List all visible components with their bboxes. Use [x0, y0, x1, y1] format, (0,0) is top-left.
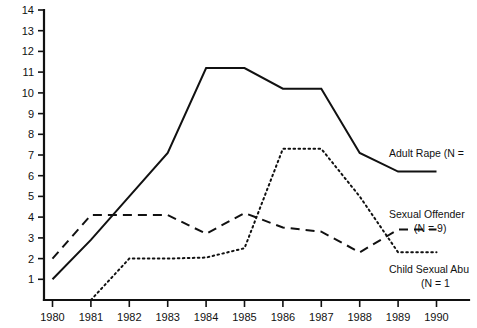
x-tick-label: 1989 — [386, 311, 410, 323]
x-tick-label: 1983 — [155, 311, 179, 323]
legend-label-sexual-offender: Sexual Offender — [389, 208, 465, 220]
y-tick-label: 5 — [28, 190, 34, 202]
x-tick-labels: 1980 1981 1982 1983 1984 1985 1986 1987 … — [40, 311, 448, 323]
chart-canvas: 14 13 12 11 10 9 8 7 6 5 4 3 2 1 — [0, 0, 477, 328]
y-tick-label: 9 — [28, 108, 34, 120]
legend-label-child-sexual-abuse-n: (N = 1 — [421, 277, 450, 289]
legend-label-sexual-offender-n: (N = 9) — [414, 222, 446, 234]
y-tick-label: 11 — [23, 66, 34, 78]
y-tick-label: 1 — [28, 273, 34, 285]
x-tick-label: 1981 — [79, 311, 103, 323]
x-tick-label: 1987 — [309, 311, 333, 323]
y-tick-label: 12 — [22, 45, 34, 57]
y-tick-label: 6 — [28, 170, 34, 182]
x-tick-label: 1980 — [40, 311, 64, 323]
x-tick-label: 1986 — [271, 311, 295, 323]
legend-label-child-sexual-abuse: Child Sexual Abu — [389, 263, 469, 275]
y-tick-label: 3 — [28, 232, 34, 244]
legend-group: Adult Rape (N = Sexual Offender (N = 9) … — [389, 147, 469, 289]
y-tick-label: 8 — [28, 128, 34, 140]
y-tick-label: 14 — [22, 4, 34, 16]
y-tick-label: 7 — [28, 149, 34, 161]
series-group — [53, 68, 437, 300]
line-chart: 14 13 12 11 10 9 8 7 6 5 4 3 2 1 — [0, 0, 477, 328]
x-tick-label: 1984 — [194, 311, 218, 323]
series-line-adult-rape — [53, 68, 437, 279]
y-tick-label: 4 — [28, 211, 34, 223]
legend-label-adult-rape: Adult Rape (N = — [389, 147, 464, 159]
y-tick-label: 2 — [28, 253, 34, 265]
y-tick-label: 10 — [22, 87, 34, 99]
x-tick-label: 1982 — [117, 311, 141, 323]
x-tick-label: 1988 — [347, 311, 371, 323]
y-tick-label: 13 — [22, 25, 34, 37]
x-tick-label: 1985 — [232, 311, 256, 323]
y-tick-labels: 14 13 12 11 10 9 8 7 6 5 4 3 2 1 — [22, 4, 34, 285]
series-line-child-sexual-abuse — [91, 149, 437, 300]
x-tick-label: 1990 — [424, 311, 448, 323]
series-line-sexual-offender — [53, 213, 437, 259]
